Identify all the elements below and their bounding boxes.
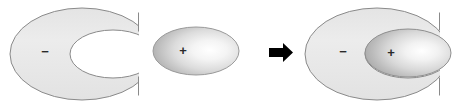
concave-convex-assembly-diagram: − + − + <box>0 0 474 105</box>
right-assembled-shape: − + <box>305 8 451 100</box>
arrow-right-icon <box>269 43 293 62</box>
middle-convex-ellipse: + <box>153 27 239 75</box>
right-positive-charge-label: + <box>387 45 395 60</box>
arrow-right-shape <box>269 43 293 62</box>
ellipse-body-inserted <box>365 29 451 77</box>
ellipse-body-middle <box>153 27 239 75</box>
middle-positive-charge-label: + <box>179 43 187 58</box>
crescent-body-left <box>10 8 156 100</box>
right-negative-charge-label: − <box>339 44 347 59</box>
figure-canvas: − + − + <box>0 0 474 105</box>
left-negative-charge-label: − <box>41 44 49 59</box>
left-concave-shape: − <box>10 8 156 100</box>
